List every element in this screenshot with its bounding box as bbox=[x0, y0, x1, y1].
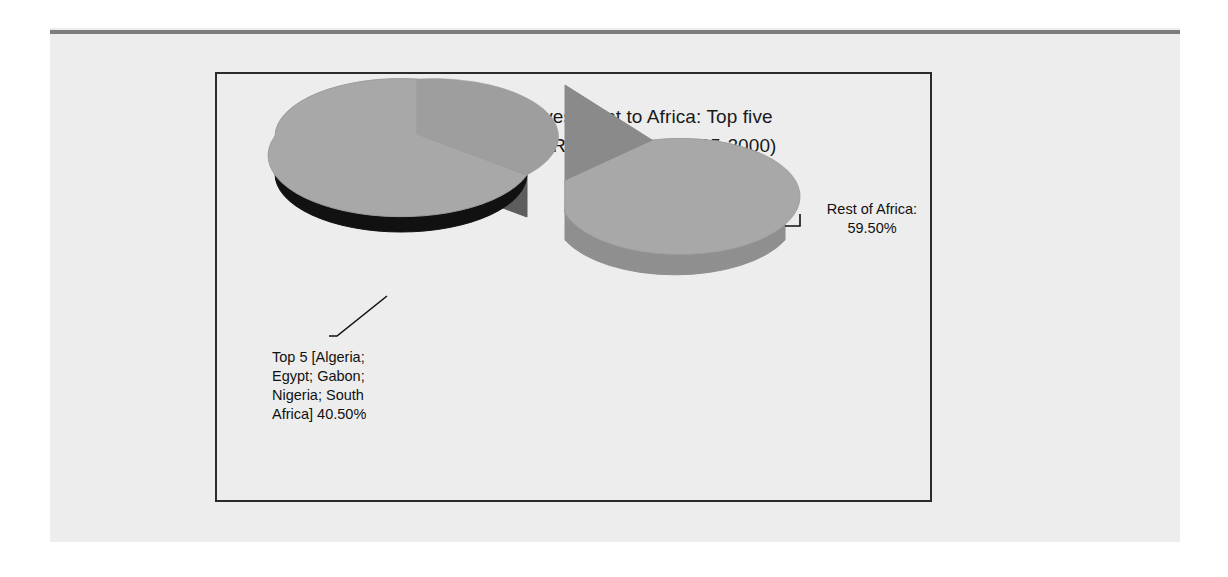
page-header-rule bbox=[50, 30, 1180, 34]
pie-chart-svg bbox=[217, 74, 934, 504]
pie-label-top-five: Top 5 [Algeria; Egypt; Gabon; Nigeria; S… bbox=[272, 348, 422, 424]
pie-slice-rest-of-africa[interactable] bbox=[565, 85, 800, 275]
figure-frame: Figure 4.2: Direct Investment to Africa:… bbox=[215, 72, 932, 502]
pie-label-rest-of-africa: Rest of Africa: 59.50% bbox=[797, 200, 947, 238]
leader-line-top-five bbox=[329, 296, 387, 336]
pie-chart-plot-area: Rest of Africa: 59.50% Top 5 [Algeria; E… bbox=[217, 74, 934, 504]
pie-slice-top-five[interactable] bbox=[268, 79, 559, 232]
